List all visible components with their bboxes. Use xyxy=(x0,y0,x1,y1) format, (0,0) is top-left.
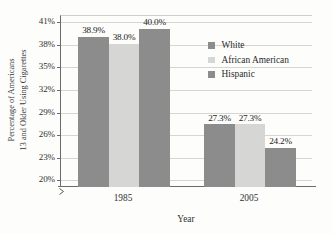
y-axis-tick-labels: 20%23%26%29%32%35%38%41% xyxy=(28,0,55,234)
y-axis-tick xyxy=(57,22,61,23)
y-axis-tick-label: 32% xyxy=(28,84,55,94)
bar xyxy=(265,148,296,187)
legend-item: White xyxy=(208,38,289,53)
y-axis-tick xyxy=(57,67,61,68)
x-axis-title: Year xyxy=(60,214,312,224)
y-axis-break-icon xyxy=(58,186,65,195)
bar-value-label: 40.0% xyxy=(133,17,176,27)
legend-label: Hispanic xyxy=(222,69,255,79)
y-axis-tick-label: 35% xyxy=(28,61,55,71)
legend-swatch xyxy=(208,42,215,49)
legend-swatch xyxy=(208,71,215,78)
legend-swatch xyxy=(208,57,215,64)
y-axis-tick-label: 20% xyxy=(28,174,55,184)
y-axis-tick xyxy=(57,135,61,136)
bar-chart: Percentage of Americans 13 and Older Usi… xyxy=(0,0,332,234)
y-axis-title-line-2: 13 and Older Using Cigarettes xyxy=(17,50,29,151)
legend-item: African American xyxy=(208,53,289,68)
bar-value-label: 24.2% xyxy=(259,136,302,146)
y-axis-tick-label: 26% xyxy=(28,129,55,139)
y-axis-tick-label: 29% xyxy=(28,107,55,117)
legend-label: White xyxy=(222,40,245,50)
bar xyxy=(204,124,235,187)
bar xyxy=(235,124,266,187)
y-axis-title-line-1: Percentage of Americans xyxy=(6,50,18,151)
y-axis-tick xyxy=(57,158,61,159)
legend-item: Hispanic xyxy=(208,67,289,82)
bar xyxy=(109,44,140,187)
bar xyxy=(139,29,170,187)
y-axis-tick-label: 38% xyxy=(28,39,55,49)
legend-label: African American xyxy=(222,55,289,65)
y-axis-tick-label: 41% xyxy=(28,16,55,26)
x-axis-group-label: 1985 xyxy=(114,193,133,203)
bar xyxy=(78,37,109,187)
y-axis-tick xyxy=(57,45,61,46)
y-axis-title: Percentage of Americans 13 and Older Usi… xyxy=(4,14,30,186)
y-axis-tick xyxy=(57,180,61,181)
y-axis-tick xyxy=(57,90,61,91)
y-axis-tick xyxy=(57,113,61,114)
y-axis-tick-label: 23% xyxy=(28,152,55,162)
chart-legend: WhiteAfrican AmericanHispanic xyxy=(208,38,289,82)
bar-value-label: 27.3% xyxy=(229,113,272,123)
x-axis-group-label: 2005 xyxy=(240,193,259,203)
y-gridline xyxy=(61,22,312,23)
